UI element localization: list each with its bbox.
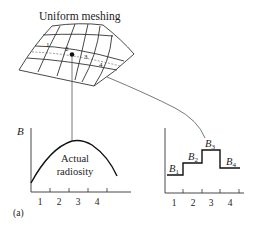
patch-labels: 1 2 3 4 [46,41,103,69]
step-label-b4: B4 [226,156,236,169]
left-x-ticks [50,188,107,192]
left-x-tick-label-3: 3 [76,197,81,207]
panel-label: (a) [13,208,24,219]
connector-curve [107,77,205,138]
uniform-meshing-diagram: Uniform meshing 1 2 3 4 B [0,0,257,226]
diagram-title: Uniform meshing [39,10,121,23]
right-x-tick-label-4: 4 [228,198,233,208]
patch-label-3: 3 [84,53,88,61]
right-plot: B1 B2 B3 B4 1 2 3 4 [165,128,244,208]
left-x-tick-label-1: 1 [38,197,43,207]
right-x-tick-label-3: 3 [209,198,214,208]
mesh-surface [19,24,134,86]
left-x-tick-label-2: 2 [57,197,62,207]
right-x-ticks [183,189,239,193]
step-label-b3: B3 [205,138,215,151]
patch-label-4: 4 [99,61,103,69]
step-label-b2: B2 [188,151,198,164]
patch-label-1: 1 [46,41,50,49]
step-label-b1: B1 [169,163,179,176]
right-x-tick-label-1: 1 [172,198,177,208]
right-x-tick-label-2: 2 [191,198,196,208]
left-x-tick-label-4: 4 [95,197,100,207]
left-y-axis-label: B [17,125,24,137]
curve-label-radiosity: radiosity [57,166,94,177]
curve-label-actual: Actual [61,153,89,164]
patch-label-2: 2 [65,45,69,53]
